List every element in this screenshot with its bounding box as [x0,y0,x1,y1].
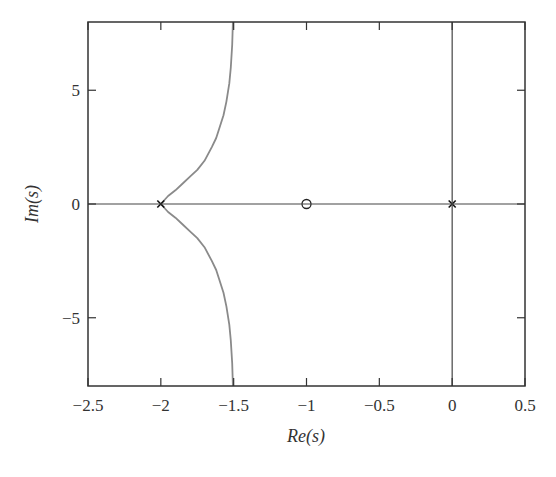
x-axis-label: Re(s) [286,426,325,447]
root-locus-chart: −2.5−2−1.5−1−0.500.5−505 Re(s) Im(s) [0,0,556,477]
y-tick-label: 5 [72,81,81,100]
x-tick-label: −1 [297,396,315,415]
x-tick-label: 0.5 [514,396,535,415]
axes: −2.5−2−1.5−1−0.500.5−505 [62,22,536,415]
locus-branch [161,204,233,386]
x-tick-label: 0 [448,396,457,415]
x-tick-label: −1.5 [218,396,249,415]
locus-branch [161,22,233,204]
y-tick-label: −5 [62,309,80,328]
x-tick-label: −2 [152,396,170,415]
y-axis-label: Im(s) [22,185,43,224]
x-tick-label: −0.5 [364,396,395,415]
x-tick-label: −2.5 [73,396,104,415]
y-tick-label: 0 [72,195,81,214]
